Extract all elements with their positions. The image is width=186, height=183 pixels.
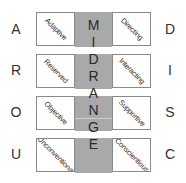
box-directing: Directing <box>112 12 151 46</box>
middle-letter-d: D <box>75 52 112 66</box>
left-letter-o: O <box>8 104 24 120</box>
right-letter-s: S <box>162 104 178 120</box>
left-letter-u: U <box>8 146 24 162</box>
left-letter-a: A <box>8 21 24 37</box>
middle-letter-i: I <box>75 35 112 49</box>
middle-letter-m: M <box>75 18 112 32</box>
middle-letter-g: G <box>75 120 112 134</box>
right-letter-i: I <box>162 62 178 78</box>
box-reserved: Reserved <box>36 54 75 88</box>
right-letter-d: D <box>162 21 178 37</box>
middle-letter-n: N <box>75 103 112 117</box>
box-conscientious: Conscientious <box>112 138 151 172</box>
middle-letter-e: E <box>75 137 112 151</box>
box-objective: Objective <box>36 96 75 130</box>
middle-letter-a: A <box>75 86 112 100</box>
middle-letter-r: R <box>75 69 112 83</box>
right-letter-c: C <box>162 146 178 162</box>
box-supportive: Supportive <box>112 96 151 130</box>
box-unconventional: Unconventional <box>36 138 75 172</box>
left-letter-r: R <box>8 62 24 78</box>
box-interacting: Interacting <box>112 54 151 88</box>
box-adaptive: Adaptive <box>36 12 75 46</box>
